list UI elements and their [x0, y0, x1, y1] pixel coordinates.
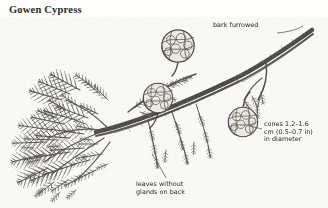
annotation-bark-furrowed: bark furrowed: [213, 22, 258, 30]
annotation-cone-size: cones 1.2–1.6 cm (0.5–0.7 in) in diamete…: [264, 121, 313, 144]
illustration-plate: Gowen Cypress bark furrowed cones 1.2–1.…: [0, 0, 328, 208]
page-title: Gowen Cypress: [9, 4, 82, 15]
cone-upper: [162, 30, 194, 76]
botanical-illustration: [0, 0, 328, 208]
foliage-spray: [9, 66, 111, 203]
annotation-leaves-without-glands: leaves without glands on back: [136, 181, 185, 196]
leader-line-leaves: [152, 154, 166, 178]
leader-line-bark: [277, 26, 303, 33]
